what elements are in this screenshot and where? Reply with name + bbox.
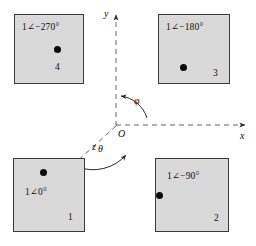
box-index-4: 4 xyxy=(55,62,60,72)
phasor-label-1: 1∠0° xyxy=(25,186,47,197)
theta-angle-label: θ xyxy=(98,143,103,154)
phasor-dot-2 xyxy=(156,192,163,199)
phi-angle-label: φ xyxy=(134,95,140,106)
box-index-1: 1 xyxy=(68,212,73,222)
x-axis-label: x xyxy=(240,130,244,141)
quadrant-box-1 xyxy=(13,158,85,232)
phasor-label-4: 1∠−270° xyxy=(22,21,60,32)
origin-label: O xyxy=(118,128,125,139)
theta-arc xyxy=(78,155,126,170)
y-axis-label: y xyxy=(104,8,108,19)
phasor-label-2: 1∠−90° xyxy=(167,170,200,181)
z-axis-label: z xyxy=(92,141,96,152)
phasor-dot-4 xyxy=(54,46,61,53)
box-index-3: 3 xyxy=(213,68,218,78)
phasor-dot-1 xyxy=(40,169,47,176)
phasor-label-3: 1∠−180° xyxy=(166,21,204,32)
phasor-quadrant-figure: y x z O φ θ 1∠−270° 4 1∠−180° 3 1∠0° 1 1… xyxy=(0,0,256,246)
box-index-2: 2 xyxy=(214,213,219,223)
phasor-dot-3 xyxy=(180,64,187,71)
